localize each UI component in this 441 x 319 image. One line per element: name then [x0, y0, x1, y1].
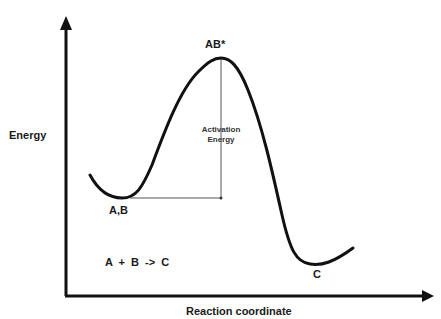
- reaction-equation: A + B -> C: [105, 256, 169, 268]
- reactants-label: A,B: [109, 204, 128, 216]
- x-axis-label: Reaction coordinate: [186, 305, 292, 317]
- transition-state-label: AB*: [205, 38, 225, 50]
- activation-label-line1: Activation: [198, 125, 244, 135]
- product-label: C: [313, 268, 321, 280]
- y-axis-label: Energy: [9, 129, 46, 141]
- guide-corner-dot: [220, 197, 223, 200]
- x-axis-arrowhead: [422, 290, 434, 302]
- activation-energy-label: Activation Energy: [198, 125, 244, 145]
- y-axis-arrowhead: [60, 16, 72, 30]
- activation-label-line2: Energy: [198, 135, 244, 145]
